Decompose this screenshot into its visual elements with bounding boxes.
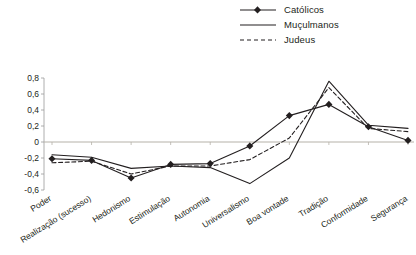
x-axis-label: Poder xyxy=(29,193,54,214)
x-axis-labels: PoderRealização (sucesso)HedonismoEstimu… xyxy=(18,193,409,245)
data-point-marker xyxy=(48,155,55,162)
svg-text:0,2: 0,2 xyxy=(27,121,39,131)
svg-text:0: 0 xyxy=(34,137,39,147)
data-series-group xyxy=(48,81,411,183)
line-chart-plot: 0,80,60,40,20-0,2-0,4-0,6 PoderRealizaçã… xyxy=(0,0,416,255)
y-axis: 0,80,60,40,20-0,2-0,4-0,6 xyxy=(24,73,44,195)
x-axis-label: Realização (sucesso) xyxy=(18,193,92,245)
svg-text:-0,6: -0,6 xyxy=(24,185,39,195)
data-point-marker xyxy=(404,137,411,144)
svg-text:0,8: 0,8 xyxy=(27,73,39,83)
data-point-marker xyxy=(128,174,135,181)
data-point-marker xyxy=(365,123,372,130)
x-axis-label: Segurança xyxy=(369,193,409,223)
svg-text:0,6: 0,6 xyxy=(27,89,39,99)
svg-text:-0,4: -0,4 xyxy=(24,169,39,179)
chart-container: Católicos Muçulmanos Judeus 0,80,60,40,2… xyxy=(0,0,416,255)
x-axis-label: Boa vontade xyxy=(245,193,291,227)
svg-text:-0,2: -0,2 xyxy=(24,153,39,163)
x-axis-label: Hedonismo xyxy=(90,193,132,224)
series-line-católicos xyxy=(52,104,408,178)
svg-text:0,4: 0,4 xyxy=(27,105,39,115)
x-axis-label: Estimulação xyxy=(127,193,172,226)
series-line-muçulmanos xyxy=(52,81,408,183)
data-point-marker xyxy=(325,101,332,108)
x-axis-label: Tradição xyxy=(297,193,330,219)
